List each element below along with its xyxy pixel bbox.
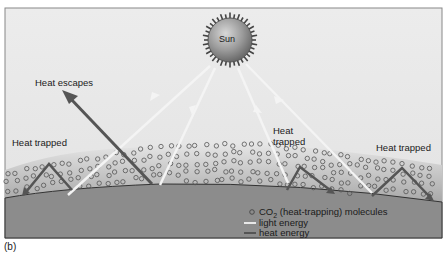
legend-heat-label: heat energy	[259, 227, 309, 238]
legend-co2-prefix: CO	[259, 206, 273, 217]
sun-label: Sun	[219, 34, 235, 45]
legend-co2-suffix: (heat-trapping) molecules	[277, 206, 387, 217]
heat-escapes-label: Heat escapes	[35, 77, 93, 88]
heat-trapped-center-label-line2: trapped	[273, 136, 305, 147]
heat-trapped-right-label: Heat trapped	[376, 142, 431, 153]
panel-label: (b)	[4, 241, 16, 252]
heat-trapped-left-label: Heat trapped	[12, 137, 67, 148]
heat-trapped-center-label-line1: Heat	[273, 125, 293, 136]
